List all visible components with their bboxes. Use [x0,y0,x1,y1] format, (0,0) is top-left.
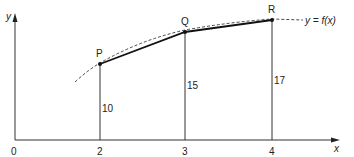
ordinate-label-q: 15 [187,80,199,91]
point-r [270,18,274,22]
ordinate-label-p: 10 [102,103,114,114]
y-axis-label: y [5,11,12,22]
ordinates: 10 15 17 [100,20,286,140]
function-curve [75,19,303,82]
origin-label: 0 [11,146,17,157]
point-label-p: P [96,48,103,59]
function-diagram: y x 0 y = f(x) 10 15 17 P Q R 2 3 4 [0,0,354,157]
ordinate-label-r: 17 [274,75,286,86]
x-axis-label: x [333,143,340,154]
function-label: y = f(x) [304,15,336,26]
x-tick-2: 2 [97,146,103,157]
point-p [98,62,102,66]
point-label-q: Q [181,16,189,27]
points: P Q R [96,4,275,66]
x-axis-arrow-icon [331,138,340,143]
point-label-r: R [268,4,275,15]
x-tick-3: 3 [182,146,188,157]
x-tick-4: 4 [269,146,275,157]
point-q [183,30,187,34]
y-axis-arrow-icon [13,13,18,22]
x-tick-labels: 2 3 4 [97,146,275,157]
